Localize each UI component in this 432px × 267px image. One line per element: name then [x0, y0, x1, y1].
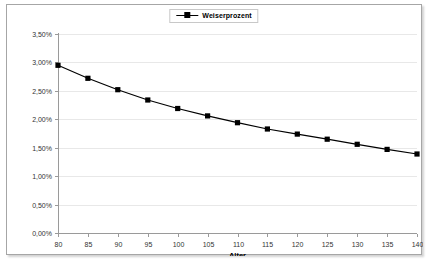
- data-point-marker: [205, 113, 210, 118]
- data-point-marker: [85, 76, 90, 81]
- chart-legend: Weiserprozent: [169, 9, 258, 23]
- x-tick-label: 130: [352, 241, 364, 248]
- data-point-marker: [295, 132, 300, 137]
- y-tick-label: 0,00%: [32, 230, 52, 237]
- x-tick-label: 100: [173, 241, 185, 248]
- data-point-marker: [325, 137, 330, 142]
- x-tick-label: 115: [262, 241, 273, 248]
- series-line-0: [58, 65, 417, 154]
- data-point-marker: [414, 151, 419, 156]
- x-tick-label: 80: [55, 241, 63, 248]
- x-tick-label: 90: [115, 241, 123, 248]
- y-tick-label: 1,00%: [32, 173, 52, 180]
- x-tick-label: 125: [322, 241, 334, 248]
- data-point-marker: [265, 126, 270, 131]
- y-tick-label: 0,50%: [32, 202, 52, 209]
- y-tick-label: 1,50%: [32, 145, 52, 152]
- data-point-marker: [235, 120, 240, 125]
- data-point-marker: [385, 147, 390, 152]
- data-point-marker: [145, 97, 150, 102]
- y-tick-label: 3,50%: [32, 31, 52, 38]
- y-tick-label: 2,50%: [32, 88, 52, 95]
- y-tick-label: 3,00%: [32, 59, 52, 66]
- x-axis-title: Alter: [229, 251, 246, 257]
- y-tick-label: 2,00%: [32, 116, 52, 123]
- data-point-marker: [55, 63, 60, 68]
- plot-area: 0,00%0,50%1,00%1,50%2,00%2,50%3,00%3,50%…: [7, 5, 423, 256]
- x-tick-label: 135: [382, 241, 394, 248]
- data-point-marker: [175, 106, 180, 111]
- data-point-marker: [355, 142, 360, 147]
- x-tick-label: 120: [292, 241, 304, 248]
- x-tick-label: 140: [412, 241, 423, 248]
- chart-svg: 0,00%0,50%1,00%1,50%2,00%2,50%3,00%3,50%…: [7, 5, 423, 256]
- x-tick-label: 110: [233, 241, 244, 248]
- legend-label-weiserprozent: Weiserprozent: [202, 12, 251, 19]
- data-point-marker: [115, 87, 120, 92]
- chart-frame: 0,00%0,50%1,00%1,50%2,00%2,50%3,00%3,50%…: [6, 4, 422, 255]
- x-tick-label: 85: [85, 241, 93, 248]
- legend-line-marker-icon: [176, 11, 198, 20]
- x-tick-label: 95: [145, 241, 153, 248]
- x-tick-label: 105: [203, 241, 215, 248]
